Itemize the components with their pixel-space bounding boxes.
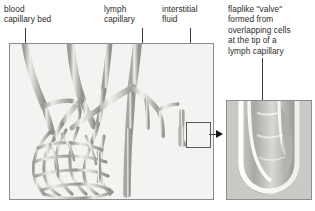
callout-region-box[interactable] — [186, 122, 211, 148]
label-lymph-capillary: lymph capillary — [104, 4, 162, 25]
main-illustration-svg — [10, 44, 213, 199]
label-interstitial-fluid: interstitial fluid — [162, 4, 218, 25]
arrow-right-icon — [216, 130, 223, 138]
label-valve-caption: flaplike "valve" formed from overlapping… — [228, 4, 314, 56]
main-illustration-panel — [9, 43, 214, 200]
inset-valve-svg — [227, 101, 311, 199]
figure-root: blood capillary bed lymph capillary inte… — [0, 0, 315, 211]
label-blood-capillary-bed: blood capillary bed — [4, 4, 90, 25]
inset-valve-panel — [226, 100, 312, 200]
